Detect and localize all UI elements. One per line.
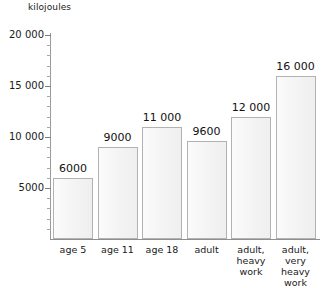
y-axis-tick-label: 15 000 (0, 81, 44, 91)
category-label-line: age 5 (49, 244, 97, 255)
x-axis-category-label: age 18 (138, 244, 186, 255)
x-axis-line (50, 239, 320, 240)
category-label-line: heavy (227, 255, 275, 266)
category-label-line: heavy (272, 266, 320, 277)
bar-value-label: 11 000 (136, 112, 188, 124)
x-axis-category-label: age 11 (94, 244, 142, 255)
category-label-line: age 18 (138, 244, 186, 255)
bar-value-label: 9000 (92, 132, 144, 144)
bar (231, 117, 271, 239)
y-axis-tick-label: 10 000 (0, 132, 44, 142)
y-axis-tick-label: 20 000 (0, 30, 44, 40)
bar (142, 127, 182, 239)
x-axis-category-label: age 5 (49, 244, 97, 255)
y-axis-tick-label: 5000 (0, 183, 44, 193)
category-label-line: age 11 (94, 244, 142, 255)
bar (98, 147, 138, 239)
bar-value-label: 16 000 (270, 61, 322, 73)
bar (187, 141, 227, 239)
bar-value-label: 9600 (181, 126, 233, 138)
category-label-line: work (227, 266, 275, 277)
bar (276, 76, 316, 239)
x-axis-category-label: adult,veryheavywork (272, 244, 320, 288)
x-axis-category-label: adult (183, 244, 231, 255)
bar-value-label: 6000 (47, 163, 99, 175)
category-label-line: work (272, 277, 320, 288)
category-label-line: adult, (272, 244, 320, 255)
plot-area: 6000900011 000960012 00016 000 (51, 30, 319, 239)
category-label-line: adult, (227, 244, 275, 255)
x-axis-category-label: adult,heavywork (227, 244, 275, 277)
bar (53, 178, 93, 239)
category-label-line: very (272, 255, 320, 266)
bar-value-label: 12 000 (225, 102, 277, 114)
y-axis-tick-labels: 20 00015 00010 0005000 (0, 0, 44, 285)
category-label-line: adult (183, 244, 231, 255)
